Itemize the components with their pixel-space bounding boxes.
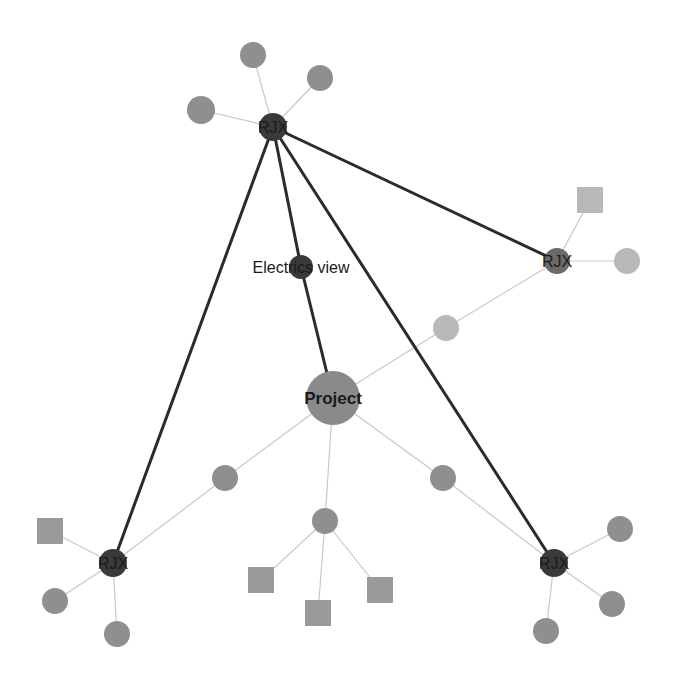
node-br-c2[interactable] — [599, 591, 625, 617]
node-label-rjx-top: RJX — [258, 119, 289, 136]
node-bl-c2[interactable] — [104, 621, 130, 647]
node-label-rjx-left: RJX — [98, 555, 129, 572]
edge-rjx-right-mid-light — [446, 261, 557, 328]
node-bl-sq[interactable] — [37, 518, 63, 544]
node-bm-sq3[interactable] — [367, 577, 393, 603]
node-top-a[interactable] — [240, 42, 266, 68]
node-br-c1[interactable] — [607, 516, 633, 542]
node-br-c3[interactable] — [533, 618, 559, 644]
node-top-c[interactable] — [187, 96, 215, 124]
node-right-sq[interactable] — [577, 187, 603, 213]
node-right-circ[interactable] — [614, 248, 640, 274]
node-bm-sq2[interactable] — [305, 600, 331, 626]
node-label-rjx-right: RJX — [542, 253, 573, 270]
node-mid-left[interactable] — [212, 465, 238, 491]
edge-bottom-hub-bm-sq2 — [318, 521, 325, 613]
edge-mid-right-rjx-bottomright — [443, 478, 554, 563]
network-graph-canvas[interactable]: RJXRJXRJXRJXElectrics viewProject — [0, 0, 674, 684]
node-label-project: Project — [304, 389, 362, 408]
node-label-electrics-view: Electrics view — [253, 259, 350, 276]
node-bm-sq1[interactable] — [248, 567, 274, 593]
labels-layer: RJXRJXRJXRJXElectrics viewProject — [98, 119, 573, 572]
node-mid-right[interactable] — [430, 465, 456, 491]
node-bl-c1[interactable] — [42, 588, 68, 614]
node-label-rjx-bottomright: RJX — [539, 555, 570, 572]
edges-layer — [50, 55, 627, 634]
node-top-b[interactable] — [307, 65, 333, 91]
node-bottom-hub[interactable] — [312, 508, 338, 534]
node-mid-light[interactable] — [433, 315, 459, 341]
edge-rjx-top-rjx-left — [113, 127, 273, 563]
